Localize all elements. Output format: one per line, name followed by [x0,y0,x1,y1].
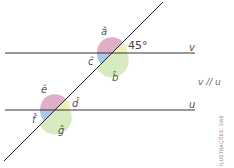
angle-e-label: ê [41,84,47,95]
parallel-relation: v // u [198,77,221,87]
label-line-v: v [189,42,196,53]
angle-g-label: ĝ [58,125,64,136]
label-line-u: u [189,99,195,110]
given-angle-label: 45° [128,39,148,52]
angle-a-label: â [101,26,107,37]
angle-d-label: d̂ [72,97,80,109]
lower-angle-sectors [40,94,72,134]
angle-b-label: b̂ [112,71,118,83]
angle-c-label: ĉ [88,56,94,67]
angle-f-label: f̂ [32,113,37,125]
parallel-lines-diagram: v u v // u â 45° ĉ b̂ ê d̂ f̂ ĝ [0,0,234,168]
transversal-line [4,2,163,161]
illustration-credit: ILUSTRAÇÕES: DAE [218,110,232,166]
